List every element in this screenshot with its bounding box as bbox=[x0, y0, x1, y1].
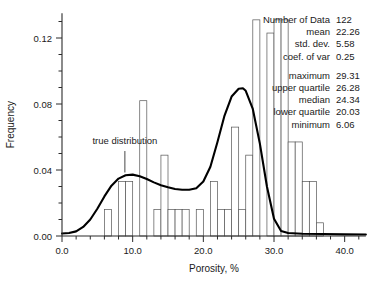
stat-value: 26.28 bbox=[336, 82, 360, 93]
histogram-bar bbox=[295, 142, 302, 236]
histogram-bar bbox=[309, 182, 316, 236]
histogram-bar bbox=[210, 182, 217, 236]
histogram-bar bbox=[154, 210, 161, 236]
x-tick-label: 40.0 bbox=[335, 245, 354, 256]
curve-annotation: true distribution bbox=[92, 135, 157, 172]
histogram-bar bbox=[288, 142, 295, 236]
histogram-bar bbox=[140, 101, 147, 236]
stat-value: 6.06 bbox=[336, 119, 355, 130]
y-tick-label: 0.04 bbox=[34, 165, 53, 176]
stat-value: 122 bbox=[336, 14, 352, 25]
x-axis-title: Porosity, % bbox=[189, 263, 239, 274]
stat-label: lower quartile bbox=[274, 106, 331, 117]
histogram-bar bbox=[168, 210, 175, 236]
stat-label: minimum bbox=[291, 119, 330, 130]
chart-figure: 0.010.020.030.040.00.000.040.080.12Poros… bbox=[0, 0, 382, 286]
histogram-bar bbox=[232, 127, 239, 236]
stat-value: 5.58 bbox=[336, 38, 355, 49]
histogram-bar bbox=[302, 182, 309, 236]
stat-label: median bbox=[299, 94, 330, 105]
histogram-bar bbox=[175, 210, 182, 236]
true-distribution-label: true distribution bbox=[92, 135, 157, 146]
histogram-bar bbox=[126, 182, 133, 236]
stat-value: 22.26 bbox=[336, 26, 360, 37]
histogram-bar bbox=[217, 210, 224, 236]
histogram-bar bbox=[119, 182, 126, 236]
stat-value: 0.25 bbox=[336, 51, 355, 62]
stat-label: maximum bbox=[289, 70, 330, 81]
histogram-bar bbox=[225, 210, 232, 236]
y-tick-label: 0.12 bbox=[34, 33, 53, 44]
x-tick-label: 0.0 bbox=[55, 245, 68, 256]
histogram-bar bbox=[246, 155, 253, 236]
stat-value: 20.03 bbox=[336, 106, 360, 117]
x-tick-label: 10.0 bbox=[123, 245, 142, 256]
y-tick-label: 0.08 bbox=[34, 99, 53, 110]
histogram-bar bbox=[182, 210, 189, 236]
stat-value: 29.31 bbox=[336, 70, 360, 81]
y-tick-label: 0.00 bbox=[34, 231, 53, 242]
stat-label: upper quartile bbox=[272, 82, 330, 93]
stat-label: std. dev. bbox=[295, 38, 330, 49]
stat-label: mean bbox=[306, 26, 330, 37]
x-tick-label: 30.0 bbox=[265, 245, 284, 256]
histogram-bar bbox=[161, 155, 168, 236]
stat-label: coef. of var bbox=[283, 51, 330, 62]
histogram-bar bbox=[274, 20, 281, 236]
y-axis-title: Frequency bbox=[5, 101, 16, 148]
histogram-chart: 0.010.020.030.040.00.000.040.080.12Poros… bbox=[0, 0, 382, 286]
x-tick-label: 20.0 bbox=[194, 245, 213, 256]
histogram-bar bbox=[196, 210, 203, 236]
stat-value: 24.34 bbox=[336, 94, 360, 105]
histogram-bar bbox=[104, 210, 111, 236]
stat-label: Number of Data bbox=[263, 14, 331, 25]
histogram-bar bbox=[239, 210, 246, 236]
